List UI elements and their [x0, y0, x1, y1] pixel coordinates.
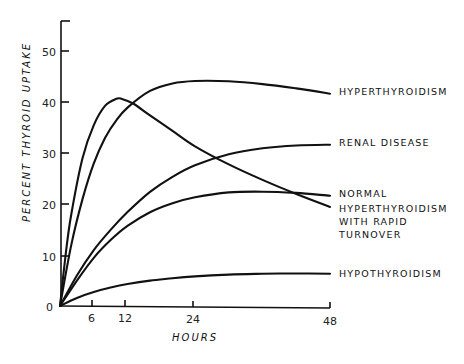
y-tick-50: 50 — [42, 46, 56, 59]
label-rapid-turnover-line1: HYPERTHYROIDISM — [339, 203, 448, 214]
curve-hyperthyroidism-with-rapid-turnover — [60, 98, 330, 306]
x-tick-12: 12 — [118, 312, 132, 325]
label-rapid-turnover-line2: WITH RAPID — [339, 216, 408, 227]
x-axis-title: HOURS — [172, 332, 218, 343]
y-tick-20: 20 — [42, 199, 56, 212]
curve-renal-disease — [60, 145, 330, 306]
label-hypothyroidism: HYPOTHYROIDISM — [339, 268, 442, 279]
x-tick-6: 6 — [88, 312, 95, 325]
y-tick-10: 10 — [42, 251, 56, 264]
x-tick-24: 24 — [186, 313, 200, 326]
curve-hypothyroidism — [60, 274, 330, 307]
label-hyperthyroidism: HYPERTHYROIDISM — [339, 86, 448, 97]
y-tick-0: 0 — [46, 301, 53, 314]
curves — [60, 81, 330, 306]
curve-normal — [60, 192, 330, 306]
y-tick-30: 30 — [42, 148, 56, 161]
x-tick-48: 48 — [323, 315, 337, 328]
y-tick-40: 40 — [42, 97, 56, 110]
label-rapid-turnover-line3: TURNOVER — [338, 229, 401, 240]
label-renal-disease: RENAL DISEASE — [339, 137, 430, 148]
x-axis — [59, 300, 330, 308]
y-axis-title: PERCENT THYROID UPTAKE — [21, 42, 32, 222]
label-normal: NORMAL — [339, 188, 387, 199]
thyroid-uptake-chart: 50 40 30 20 10 0 6 12 24 48 HOURS PERCEN… — [0, 0, 464, 364]
